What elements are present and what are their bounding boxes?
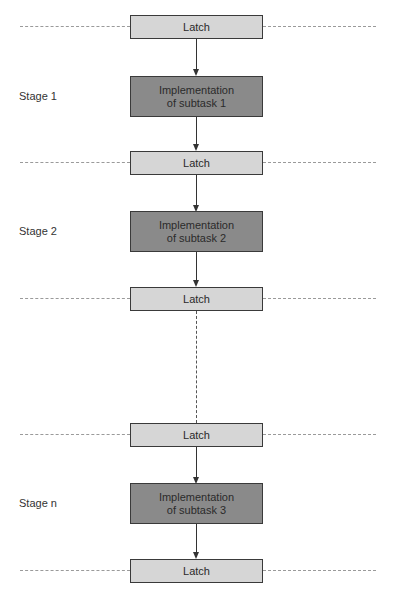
arrow-down-icon xyxy=(193,280,199,287)
connector-line xyxy=(196,39,197,70)
arrow-down-icon xyxy=(193,552,199,559)
subtask-label-line1: Implementation xyxy=(159,84,234,96)
connector-line xyxy=(196,447,197,478)
latch-box: Latch xyxy=(130,287,263,311)
latch-label: Latch xyxy=(183,21,210,34)
latch-label: Latch xyxy=(183,565,210,578)
subtask-label-line2: of subtask 1 xyxy=(167,97,226,109)
stage-boundary-line xyxy=(263,434,376,435)
stage-boundary-line xyxy=(20,570,130,571)
subtask-box-3: Implementationof subtask 3 xyxy=(130,483,263,524)
latch-label: Latch xyxy=(183,157,210,170)
subtask-box-2: Implementationof subtask 2 xyxy=(130,211,263,252)
subtask-label-line1: Implementation xyxy=(159,219,234,231)
stage-label-1: Stage 1 xyxy=(19,90,57,102)
latch-box: Latch xyxy=(130,423,263,447)
connector-line xyxy=(196,251,197,281)
stage-label-n: Stage n xyxy=(19,497,57,509)
latch-label: Latch xyxy=(183,293,210,306)
stage-boundary-line xyxy=(263,26,376,27)
connector-line xyxy=(196,175,197,206)
latch-label: Latch xyxy=(183,429,210,442)
arrow-down-icon xyxy=(193,144,199,151)
subtask-label-line2: of subtask 3 xyxy=(167,504,226,516)
latch-box: Latch xyxy=(130,151,263,175)
connector-line xyxy=(196,117,197,145)
subtask-box-1: Implementationof subtask 1 xyxy=(130,76,263,117)
latch-box: Latch xyxy=(130,15,263,39)
subtask-label-line2: of subtask 2 xyxy=(167,232,226,244)
stage-boundary-line xyxy=(20,298,130,299)
latch-box: Latch xyxy=(130,559,263,583)
stage-boundary-line xyxy=(20,26,130,27)
stage-boundary-line xyxy=(263,570,376,571)
arrow-down-icon xyxy=(193,69,199,76)
stage-boundary-line xyxy=(263,162,376,163)
stage-boundary-line xyxy=(263,298,376,299)
ellipsis-connector xyxy=(196,311,197,423)
stage-boundary-line xyxy=(20,162,130,163)
stage-label-2: Stage 2 xyxy=(19,225,57,237)
connector-line xyxy=(196,523,197,553)
stage-boundary-line xyxy=(20,434,130,435)
subtask-label-line1: Implementation xyxy=(159,491,234,503)
